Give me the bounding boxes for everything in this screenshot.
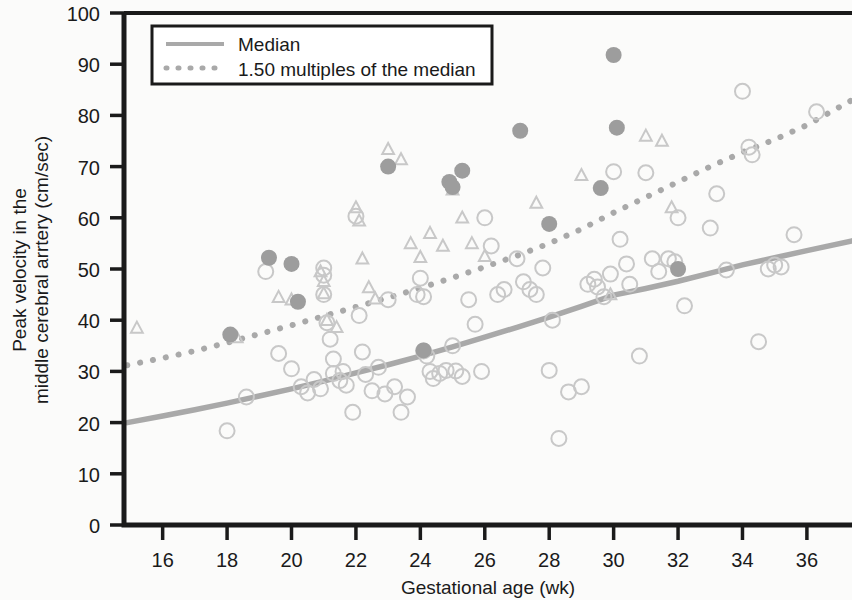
data-point-filled-circle xyxy=(541,216,557,232)
y-tick-label: 90 xyxy=(78,54,100,76)
y-tick-label: 10 xyxy=(78,464,100,486)
data-point-filled-circle xyxy=(222,327,238,343)
data-point-filled-circle xyxy=(609,120,625,136)
data-point-filled-circle xyxy=(261,250,277,266)
data-point-filled-circle xyxy=(445,179,461,195)
x-tick-label: 20 xyxy=(280,549,302,571)
plot-background xyxy=(0,0,852,600)
x-tick-label: 16 xyxy=(152,549,174,571)
legend-label-median: Median xyxy=(238,34,300,55)
data-point-filled-circle xyxy=(670,261,686,277)
data-point-filled-circle xyxy=(593,180,609,196)
y-axis-title-line1: Peak velocity in the xyxy=(9,188,30,352)
data-point-filled-circle xyxy=(512,123,528,139)
y-tick-label: 70 xyxy=(78,157,100,179)
x-tick-label: 18 xyxy=(216,549,238,571)
y-tick-label: 50 xyxy=(78,259,100,281)
data-point-filled-circle xyxy=(290,294,306,310)
legend: Median 1.50 multiples of the median xyxy=(152,26,492,84)
y-tick-label: 80 xyxy=(78,105,100,127)
x-tick-label: 32 xyxy=(667,549,689,571)
scatter-plot: 1618202224262830323436 01020304050607080… xyxy=(0,0,852,600)
x-tick-label: 28 xyxy=(538,549,560,571)
y-tick-label: 30 xyxy=(78,361,100,383)
x-axis-title: Gestational age (wk) xyxy=(401,577,575,598)
data-point-filled-circle xyxy=(416,342,432,358)
y-tick-label: 40 xyxy=(78,310,100,332)
x-tick-label: 24 xyxy=(409,549,431,571)
figure-container: 1618202224262830323436 01020304050607080… xyxy=(0,0,852,600)
data-point-filled-circle xyxy=(606,47,622,63)
y-tick-label: 60 xyxy=(78,208,100,230)
data-point-filled-circle xyxy=(380,159,396,175)
x-tick-label: 36 xyxy=(796,549,818,571)
data-point-filled-circle xyxy=(284,256,300,272)
y-tick-label: 20 xyxy=(78,413,100,435)
x-tick-label: 22 xyxy=(345,549,367,571)
y-axis-title-line2: middle cerebral arrtery (cm/sec) xyxy=(31,136,52,404)
data-point-filled-circle xyxy=(454,163,470,179)
y-tick-label: 100 xyxy=(67,3,100,25)
x-tick-label: 26 xyxy=(474,549,496,571)
y-tick-label: 0 xyxy=(89,515,100,537)
legend-label-mom: 1.50 multiples of the median xyxy=(238,59,476,80)
x-tick-label: 30 xyxy=(603,549,625,571)
x-tick-label: 34 xyxy=(731,549,753,571)
